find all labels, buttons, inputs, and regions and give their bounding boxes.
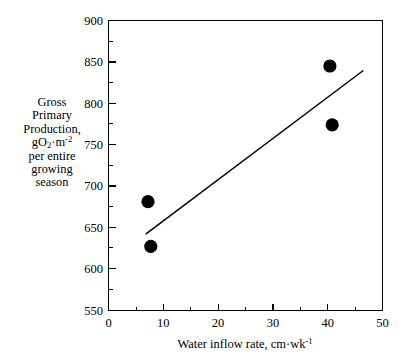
y-axis-title-line-1: Gross bbox=[14, 96, 90, 109]
axis-frame-rect bbox=[109, 21, 383, 311]
y-tick-label-600: 600 bbox=[84, 262, 103, 276]
x-tick-label-40: 40 bbox=[321, 316, 334, 330]
x-axis-ticks bbox=[109, 304, 383, 311]
x-tick-label-50: 50 bbox=[376, 316, 389, 330]
data-point bbox=[144, 240, 157, 253]
data-point bbox=[141, 195, 154, 208]
y-tick-label-850: 850 bbox=[84, 55, 103, 69]
y-unit-superscript: -2 bbox=[65, 134, 72, 144]
x-tick-label-30: 30 bbox=[267, 316, 280, 330]
y-tick-label-900: 900 bbox=[84, 14, 103, 28]
data-point bbox=[323, 59, 336, 72]
y-axis-title-line-4: gO2·m-2 bbox=[14, 136, 90, 149]
y-axis-title-line-5: per entire bbox=[14, 150, 90, 163]
x-axis-title-main: Water inflow rate, cm·wk bbox=[177, 337, 306, 351]
y-axis-title: Gross Primary Production, gO2·m-2 per en… bbox=[14, 96, 90, 190]
data-points bbox=[141, 59, 338, 253]
plot-frame bbox=[109, 21, 383, 311]
y-unit-g-o: gO bbox=[32, 135, 47, 149]
y-tick-label-650: 650 bbox=[84, 221, 103, 235]
x-axis-title-superscript: -1 bbox=[306, 336, 313, 346]
y-tick-label-550: 550 bbox=[84, 304, 103, 318]
y-axis-title-line-2: Primary bbox=[14, 109, 90, 122]
trend-line bbox=[146, 71, 364, 235]
scatter-plot-figure: 900 850 800 750 700 650 600 550 0 10 20 … bbox=[0, 0, 408, 363]
x-tick-labels: 0 10 20 30 40 50 bbox=[105, 316, 388, 330]
y-axis-ticks bbox=[109, 21, 116, 311]
y-axis-title-line-6: growing bbox=[14, 163, 90, 176]
x-axis-title: Water inflow rate, cm·wk-1 bbox=[177, 336, 312, 351]
x-tick-label-20: 20 bbox=[212, 316, 225, 330]
data-point bbox=[326, 118, 339, 131]
y-unit-m: ·m bbox=[51, 135, 65, 149]
y-axis-title-line-7: season bbox=[14, 176, 90, 189]
x-tick-label-0: 0 bbox=[105, 316, 111, 330]
x-tick-label-10: 10 bbox=[157, 316, 170, 330]
